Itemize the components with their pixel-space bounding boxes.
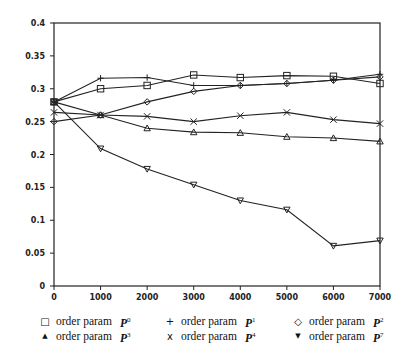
series-line: [54, 102, 380, 246]
x-tick-label: 5000: [276, 293, 299, 302]
x-tick-label: 1000: [89, 293, 112, 302]
x-tick-label: 0: [51, 293, 57, 302]
legend-param: P7: [373, 328, 384, 346]
y-tick-label: 0: [39, 282, 45, 291]
x-tick-label: 7000: [369, 293, 392, 302]
y-tick-label: 0.2: [31, 151, 45, 160]
triangle-up-marker-icon: ▲: [38, 329, 52, 344]
legend-label: order param: [56, 314, 112, 329]
x-tick-label: 6000: [322, 293, 345, 302]
y-tick-label: 0.4: [31, 19, 46, 28]
legend-item-p4: x order param P4: [163, 329, 291, 344]
legend-param: P3: [120, 328, 131, 346]
x-tick-label: 4000: [229, 293, 252, 302]
legend-label: order param: [56, 329, 112, 344]
plus-marker-icon: [97, 75, 103, 81]
chart-legend: □ order param P0 + order param P1 ◇ orde…: [38, 314, 408, 344]
legend-item-p0: □ order param P0: [38, 314, 163, 329]
line-chart: 00.050.10.150.20.250.30.350.401000200030…: [0, 0, 411, 310]
legend-item-p7: ▼ order param P7: [291, 329, 383, 344]
legend-param: P4: [245, 328, 256, 346]
triangle-down-marker-icon: ▼: [291, 329, 305, 344]
chart-series: [51, 71, 383, 249]
legend-row: ▲ order param P3 x order param P4 ▼ orde…: [38, 329, 408, 344]
legend-item-p2: ◇ order param P2: [291, 314, 383, 329]
legend-label: order param: [181, 329, 237, 344]
plot-frame: [54, 23, 380, 286]
legend-item-p3: ▲ order param P3: [38, 329, 163, 344]
y-tick-label: 0.15: [25, 183, 45, 192]
chart-axes: 00.050.10.150.20.250.30.350.401000200030…: [25, 19, 391, 302]
y-tick-label: 0.3: [31, 85, 45, 94]
legend-item-p1: + order param P1: [163, 314, 291, 329]
series-order-param-p3: [51, 99, 383, 144]
square-marker-icon: □: [38, 314, 52, 329]
series-order-param-p7: [51, 99, 383, 249]
diamond-marker-icon: ◇: [291, 314, 305, 329]
x-tick-label: 3000: [183, 293, 206, 302]
x-marker-icon: x: [163, 329, 177, 344]
y-tick-label: 0.1: [31, 216, 46, 225]
x-tick-label: 2000: [136, 293, 159, 302]
y-tick-label: 0.25: [25, 118, 45, 127]
legend-label: order param: [309, 329, 365, 344]
plus-marker-icon: [144, 74, 150, 80]
y-tick-label: 0.05: [25, 249, 45, 258]
plus-marker-icon: +: [163, 314, 177, 329]
legend-label: order param: [181, 314, 237, 329]
legend-label: order param: [309, 314, 365, 329]
legend-row: □ order param P0 + order param P1 ◇ orde…: [38, 314, 408, 329]
y-tick-label: 0.35: [25, 52, 45, 61]
